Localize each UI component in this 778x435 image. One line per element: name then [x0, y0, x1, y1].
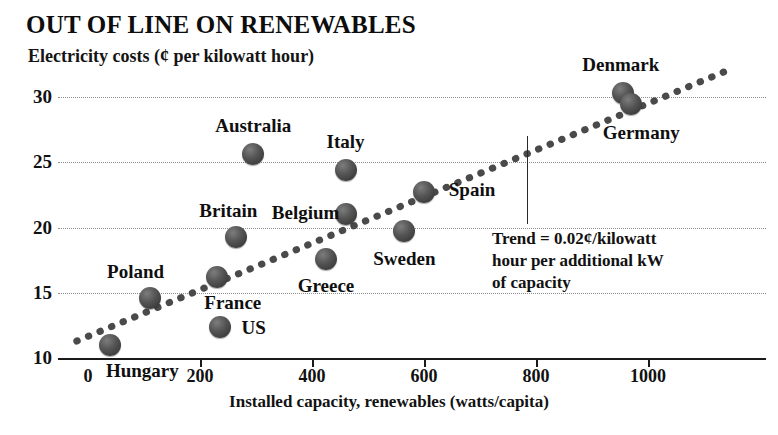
data-label-sweden: Sweden [373, 248, 435, 270]
data-point-poland[interactable] [139, 287, 161, 309]
y-tick-label-10: 10 [8, 347, 52, 369]
data-point-us[interactable] [209, 316, 231, 338]
data-label-britain: Britain [199, 200, 257, 222]
trend-annotation-line-1: Trend = 0.02¢/kilowatt [492, 228, 742, 250]
data-label-australia: Australia [215, 115, 291, 137]
data-label-denmark: Denmark [582, 54, 659, 76]
data-label-hungary: Hungary [106, 360, 179, 382]
data-point-sweden[interactable] [393, 220, 415, 242]
x-tick-label-1000: 1000 [630, 366, 666, 387]
data-label-germany: Germany [603, 122, 680, 144]
plot-area: 1015202530 HungaryPolandFranceUSBritainA… [0, 0, 778, 435]
y-tick-label-25: 25 [8, 151, 52, 173]
gridline-30 [58, 97, 766, 98]
data-label-france: France [204, 292, 261, 314]
data-point-australia[interactable] [242, 143, 264, 165]
data-label-italy: Italy [327, 131, 365, 153]
data-point-germany[interactable] [620, 93, 642, 115]
gridline-25 [58, 162, 766, 163]
data-point-hungary[interactable] [99, 334, 121, 356]
trend-annotation-line-3: of capacity [492, 272, 742, 294]
trend-annotation: Trend = 0.02¢/kilowatt hour per addition… [492, 228, 742, 293]
x-tick-label-0: 0 [84, 366, 93, 387]
x-tick-label-800: 800 [523, 366, 550, 387]
data-label-belgium: Belgium [272, 202, 340, 224]
data-label-us: US [241, 317, 265, 339]
data-point-france[interactable] [206, 266, 228, 288]
data-point-britain[interactable] [225, 226, 247, 248]
data-point-italy[interactable] [335, 159, 357, 181]
data-label-greece: Greece [298, 275, 355, 297]
x-tick-label-400: 400 [299, 366, 326, 387]
annotation-leader-line [527, 136, 528, 224]
trend-annotation-line-2: hour per additional kW [492, 250, 742, 272]
y-tick-label-20: 20 [8, 217, 52, 239]
data-point-spain[interactable] [413, 181, 435, 203]
data-label-spain: Spain [449, 179, 495, 201]
x-axis-title: Installed capacity, renewables (watts/ca… [0, 392, 778, 412]
x-tick-label-200: 200 [187, 366, 214, 387]
data-label-poland: Poland [107, 261, 164, 283]
x-axis-line [58, 358, 766, 360]
data-point-greece[interactable] [315, 248, 337, 270]
x-tick-label-600: 600 [411, 366, 438, 387]
y-tick-label-30: 30 [8, 86, 52, 108]
y-tick-label-15: 15 [8, 282, 52, 304]
chart-canvas: OUT OF LINE ON RENEWABLES Electricity co… [0, 0, 778, 435]
